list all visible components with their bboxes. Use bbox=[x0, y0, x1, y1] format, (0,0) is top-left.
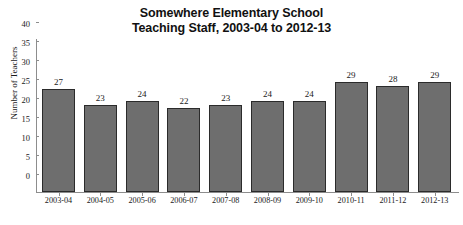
bar-chart: Somewhere Elementary School Teaching Sta… bbox=[0, 0, 463, 225]
y-axis-tick: 30 bbox=[22, 51, 37, 69]
y-axis-tick-mark bbox=[36, 136, 39, 137]
x-axis-tick-label: 2012-13 bbox=[412, 196, 458, 205]
chart-title-line-2: Teaching Staff, 2003-04 to 2012-13 bbox=[0, 21, 463, 36]
x-axis-tick-mark bbox=[268, 193, 269, 196]
y-axis-tick: 10 bbox=[22, 127, 37, 145]
y-axis-title: Number of Teachers bbox=[9, 25, 19, 141]
y-axis-tick: 20 bbox=[22, 89, 37, 107]
plot-area: 0510152025303540 27232422232424292829 bbox=[36, 40, 459, 192]
bar-value-label: 23 bbox=[209, 93, 242, 103]
y-axis-tick-label: 30 bbox=[22, 57, 37, 67]
y-axis-tick-label: 15 bbox=[22, 114, 37, 124]
bar[interactable] bbox=[167, 108, 200, 192]
y-axis-tick: 5 bbox=[26, 146, 36, 164]
x-axis-tick-label: 2006-07 bbox=[161, 196, 207, 205]
bar-value-label: 23 bbox=[84, 93, 117, 103]
bar[interactable] bbox=[376, 86, 409, 192]
bar-value-label: 29 bbox=[418, 70, 451, 80]
y-axis-tick-mark bbox=[36, 117, 39, 118]
x-axis-tick-label: 2005-06 bbox=[119, 196, 165, 205]
bar[interactable] bbox=[84, 105, 117, 192]
y-axis-tick-label: 10 bbox=[22, 133, 37, 143]
y-axis-tick: 15 bbox=[22, 108, 37, 126]
y-axis-tick: 25 bbox=[22, 70, 37, 88]
y-axis-tick-mark bbox=[36, 22, 39, 23]
y-axis-tick-mark bbox=[36, 155, 39, 156]
x-axis-tick-mark bbox=[435, 193, 436, 196]
x-axis-tick-label: 2007-08 bbox=[203, 196, 249, 205]
x-axis-tick-label: 2011-12 bbox=[370, 196, 416, 205]
y-axis-tick-label: 35 bbox=[22, 38, 37, 48]
y-axis-tick: 40 bbox=[22, 13, 37, 31]
bar-value-label: 24 bbox=[126, 89, 159, 99]
y-axis-tick-label: 5 bbox=[26, 152, 36, 162]
bar[interactable] bbox=[42, 89, 75, 192]
y-axis-tick-mark bbox=[36, 98, 39, 99]
bar[interactable] bbox=[293, 101, 326, 192]
bar[interactable] bbox=[209, 105, 242, 192]
y-axis-tick-label: 25 bbox=[22, 76, 37, 86]
bar-value-label: 27 bbox=[42, 77, 75, 87]
x-axis-tick-label: 2004-05 bbox=[77, 196, 123, 205]
bar-value-label: 24 bbox=[251, 89, 284, 99]
x-axis-tick-label: 2009-10 bbox=[286, 196, 332, 205]
bar-value-label: 28 bbox=[376, 74, 409, 84]
y-axis-tick: 35 bbox=[22, 32, 37, 50]
y-axis-tick-mark bbox=[36, 41, 39, 42]
x-axis-tick-label: 2008-09 bbox=[245, 196, 291, 205]
bar[interactable] bbox=[335, 82, 368, 192]
x-axis-tick-mark bbox=[351, 193, 352, 196]
bar-value-label: 29 bbox=[335, 70, 368, 80]
y-axis-tick: 0 bbox=[26, 165, 36, 183]
y-axis-tick-mark bbox=[36, 79, 39, 80]
x-axis-tick-mark bbox=[59, 193, 60, 196]
y-axis-tick-mark bbox=[36, 60, 39, 61]
x-axis-tick-label: 2010-11 bbox=[328, 196, 374, 205]
bar[interactable] bbox=[251, 101, 284, 192]
y-axis-tick-label: 20 bbox=[22, 95, 37, 105]
bar-value-label: 24 bbox=[293, 89, 326, 99]
x-axis-tick-mark bbox=[393, 193, 394, 196]
chart-title: Somewhere Elementary School Teaching Sta… bbox=[0, 6, 463, 36]
x-axis-tick-mark bbox=[184, 193, 185, 196]
y-axis-tick-label: 40 bbox=[22, 19, 37, 29]
bar[interactable] bbox=[126, 101, 159, 192]
x-axis-tick-label: 2003-04 bbox=[36, 196, 82, 205]
chart-title-line-1: Somewhere Elementary School bbox=[140, 6, 323, 20]
x-axis-tick-mark bbox=[309, 193, 310, 196]
bar-value-label: 22 bbox=[167, 96, 200, 106]
y-axis-tick-label: 0 bbox=[26, 171, 36, 181]
x-axis-tick-mark bbox=[226, 193, 227, 196]
y-axis-tick-mark bbox=[36, 174, 39, 175]
x-axis-tick-mark bbox=[100, 193, 101, 196]
bar[interactable] bbox=[418, 82, 451, 192]
x-axis-tick-mark bbox=[142, 193, 143, 196]
